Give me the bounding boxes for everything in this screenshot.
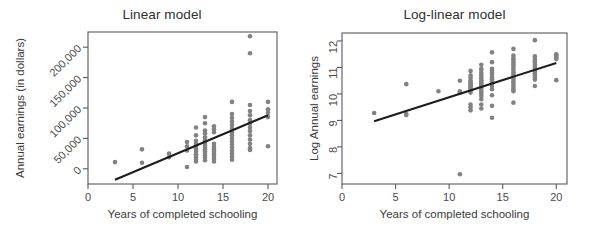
data-point bbox=[404, 82, 409, 87]
data-point bbox=[140, 160, 145, 165]
scatter-points bbox=[372, 38, 559, 177]
data-point bbox=[490, 115, 495, 120]
scatter-points bbox=[113, 34, 271, 169]
data-point bbox=[194, 159, 199, 164]
data-point bbox=[140, 147, 145, 152]
data-point bbox=[458, 78, 463, 83]
data-point bbox=[479, 102, 484, 107]
panel-linear-model: Linear model 05101520050,000100,000150,0… bbox=[0, 0, 296, 231]
two-panel-scatter-figure: Linear model 05101520050,000100,000150,0… bbox=[0, 0, 593, 231]
panel-log-linear-model: Log-linear model 05101520789101112Years … bbox=[296, 0, 593, 231]
x-tick-label: 0 bbox=[339, 191, 345, 203]
data-point bbox=[266, 111, 271, 116]
data-point bbox=[468, 108, 473, 113]
x-axis-title: Years of completed schooling bbox=[380, 208, 530, 220]
y-axis-title: Log Annual earnings bbox=[308, 56, 320, 161]
data-point bbox=[479, 97, 484, 102]
data-point bbox=[248, 142, 253, 147]
y-tick-label: 9 bbox=[327, 120, 339, 126]
data-point bbox=[203, 115, 208, 120]
regression-line bbox=[115, 115, 268, 179]
x-tick-label: 20 bbox=[550, 191, 562, 203]
data-point bbox=[212, 159, 217, 164]
data-point bbox=[203, 121, 208, 126]
data-point bbox=[404, 113, 409, 118]
data-point bbox=[468, 69, 473, 74]
data-point bbox=[372, 111, 377, 116]
data-point bbox=[490, 87, 495, 92]
data-point bbox=[533, 84, 538, 89]
y-tick-label: 150,000 bbox=[47, 73, 84, 110]
data-point bbox=[266, 144, 271, 149]
regression-line bbox=[374, 63, 556, 121]
data-point bbox=[248, 113, 253, 118]
data-point bbox=[554, 57, 559, 62]
data-point bbox=[479, 62, 484, 67]
data-point bbox=[533, 77, 538, 82]
data-point bbox=[511, 47, 516, 52]
data-point bbox=[554, 78, 559, 83]
x-tick-label: 5 bbox=[130, 191, 136, 203]
data-point bbox=[185, 165, 190, 170]
data-point bbox=[490, 104, 495, 109]
y-tick-label: 7 bbox=[327, 173, 339, 179]
data-point bbox=[113, 160, 118, 165]
data-point bbox=[248, 148, 253, 153]
x-tick-label: 5 bbox=[393, 191, 399, 203]
log-linear-model-plot: 05101520789101112Years of completed scho… bbox=[296, 0, 593, 231]
data-point bbox=[248, 129, 253, 134]
y-tick-label: 11 bbox=[327, 67, 339, 78]
data-point bbox=[248, 103, 253, 108]
data-point bbox=[230, 100, 235, 105]
x-tick-label: 10 bbox=[443, 191, 455, 203]
x-tick-label: 0 bbox=[85, 191, 91, 203]
data-point bbox=[490, 50, 495, 55]
data-point bbox=[533, 38, 538, 43]
x-axis-title: Years of completed schooling bbox=[108, 208, 258, 220]
data-point bbox=[490, 93, 495, 98]
data-point bbox=[266, 100, 271, 105]
data-point bbox=[458, 172, 463, 177]
data-point bbox=[248, 137, 253, 142]
y-tick-label: 8 bbox=[327, 147, 339, 153]
data-point bbox=[248, 109, 253, 114]
data-point bbox=[248, 51, 253, 56]
x-tick-label: 15 bbox=[217, 191, 229, 203]
y-tick-label: 0 bbox=[71, 164, 84, 177]
linear-model-plot: 05101520050,000100,000150,000200,000Year… bbox=[0, 0, 296, 231]
data-point bbox=[490, 60, 495, 65]
y-tick-label: 100,000 bbox=[47, 103, 84, 140]
data-point bbox=[248, 133, 253, 138]
y-tick-label: 200,000 bbox=[47, 42, 84, 79]
y-tick-label: 12 bbox=[327, 41, 339, 53]
data-point bbox=[511, 89, 516, 94]
x-tick-label: 20 bbox=[262, 191, 274, 203]
y-tick-label: 10 bbox=[327, 94, 339, 106]
x-tick-label: 10 bbox=[172, 191, 184, 203]
data-point bbox=[194, 125, 199, 130]
x-tick-label: 15 bbox=[497, 191, 509, 203]
data-point bbox=[248, 34, 253, 39]
data-point bbox=[230, 157, 235, 162]
data-point bbox=[185, 140, 190, 145]
data-point bbox=[203, 158, 208, 163]
data-point bbox=[194, 133, 199, 138]
data-point bbox=[511, 100, 516, 105]
data-point bbox=[212, 130, 217, 135]
data-point bbox=[436, 89, 441, 94]
y-axis-title: Annual earnings (in dollars) bbox=[14, 38, 26, 178]
data-point bbox=[479, 106, 484, 111]
